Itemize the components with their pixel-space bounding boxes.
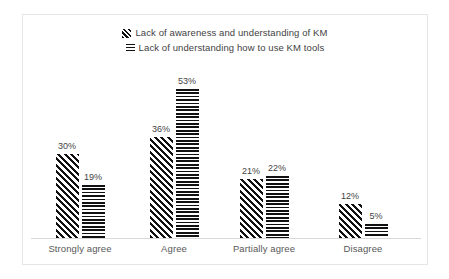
bar-rect[interactable] [365, 224, 388, 238]
bar-value-label: 30% [58, 141, 76, 152]
bar-group-agree: 36% 53% [127, 15, 221, 238]
bar-rect[interactable] [56, 154, 79, 238]
bar-awareness-disagree[interactable]: 12% [339, 15, 362, 238]
bar-groups: 30% 19% 36% 53% [23, 15, 429, 238]
bar-value-label: 19% [84, 172, 102, 183]
category-label-partially-agree: Partially agree [217, 242, 311, 256]
bar-rect[interactable] [82, 185, 105, 238]
bar-group-strongly-agree: 30% 19% [33, 15, 127, 238]
bar-kmtools-disagree[interactable]: 5% [365, 15, 388, 238]
bar-value-label: 21% [242, 166, 260, 177]
bar-rect[interactable] [176, 89, 199, 238]
category-label-disagree: Disagree [316, 242, 410, 256]
bar-awareness-partially-agree[interactable]: 21% [240, 15, 263, 238]
bar-awareness-strongly-agree[interactable]: 30% [56, 15, 79, 238]
x-axis-line [31, 238, 421, 239]
bar-value-label: 53% [178, 76, 196, 87]
x-axis-category-labels: Strongly agree Agree Partially agree Dis… [23, 242, 429, 262]
bar-value-label: 5% [369, 211, 382, 222]
bar-kmtools-partially-agree[interactable]: 22% [266, 15, 289, 238]
bar-rect[interactable] [240, 179, 263, 238]
bar-kmtools-strongly-agree[interactable]: 19% [82, 15, 105, 238]
bar-value-label: 12% [341, 191, 359, 202]
category-label-agree: Agree [127, 242, 221, 256]
bar-group-disagree: 12% 5% [316, 15, 410, 238]
bar-group-partially-agree: 21% 22% [217, 15, 311, 238]
category-label-strongly-agree: Strongly agree [33, 242, 127, 256]
chart-frame: Lack of awareness and understanding of K… [22, 14, 428, 265]
bar-awareness-agree[interactable]: 36% [150, 15, 173, 238]
bar-rect[interactable] [266, 176, 289, 238]
bar-value-label: 22% [268, 163, 286, 174]
plot-area: 30% 19% 36% 53% [23, 15, 429, 266]
bar-rect[interactable] [150, 137, 173, 238]
bar-kmtools-agree[interactable]: 53% [176, 15, 199, 238]
bar-rect[interactable] [339, 204, 362, 238]
bar-value-label: 36% [152, 124, 170, 135]
